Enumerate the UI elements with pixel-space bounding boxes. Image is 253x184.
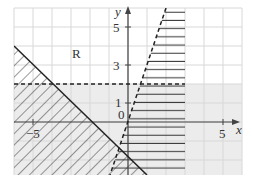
y-axis-label: y [113,4,121,19]
y-tick-label-3: 3 [113,58,120,73]
y-axis-arrow-icon [125,6,131,14]
y-tick-label-5: 5 [113,20,120,35]
region-label-r: R [72,46,81,61]
x-tick-label-5: 5 [219,126,226,141]
x-axis-label: x [235,122,242,137]
x-tick-label-neg5: −5 [26,126,40,141]
inequality-graph: y x 5 3 1 0 5 −5 R [0,0,253,184]
origin-label: 0 [118,107,125,122]
